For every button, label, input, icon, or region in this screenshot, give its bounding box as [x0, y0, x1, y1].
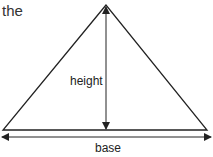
height-label: height [70, 74, 103, 88]
triangle-diagram: height base [0, 0, 213, 157]
base-label: base [95, 141, 121, 155]
triangle-shape [3, 5, 207, 130]
